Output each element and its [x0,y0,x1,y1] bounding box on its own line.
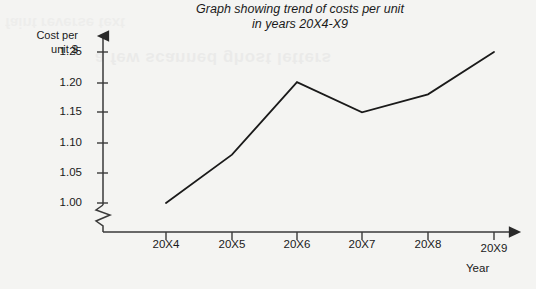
y-axis-break-icon [96,205,110,232]
chart-page: a few scanned ghost letters faint revers… [0,0,536,289]
chart-plot-area [0,0,536,289]
cost-per-unit-trend-line [166,52,494,203]
